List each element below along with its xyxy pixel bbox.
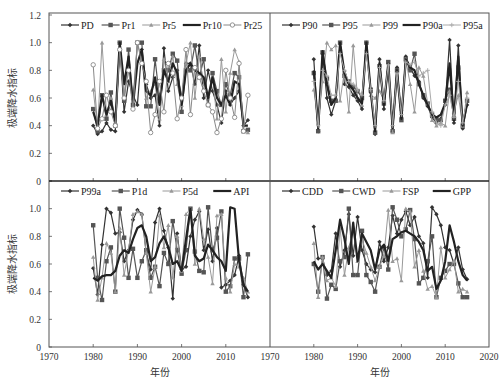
square-marker bbox=[202, 270, 206, 274]
y-tick-label: 0.4 bbox=[29, 287, 41, 297]
circle-marker bbox=[179, 96, 183, 100]
square-marker bbox=[430, 234, 434, 238]
square-marker bbox=[339, 189, 343, 193]
circle-marker bbox=[237, 61, 241, 65]
circle-marker bbox=[153, 112, 157, 116]
legend-label: Pr25 bbox=[243, 20, 262, 31]
diamond-marker bbox=[162, 46, 166, 50]
square-marker bbox=[210, 71, 214, 75]
square-marker bbox=[122, 236, 126, 240]
triangle-marker bbox=[166, 223, 170, 227]
diamond-marker bbox=[382, 107, 386, 111]
square-marker bbox=[390, 205, 394, 209]
legend-item-p90a: P90a bbox=[403, 20, 444, 31]
triangle-marker bbox=[334, 284, 338, 288]
plus-marker bbox=[390, 123, 394, 127]
square-marker bbox=[338, 259, 342, 263]
diamond-marker bbox=[312, 224, 316, 228]
triangle-marker bbox=[95, 298, 99, 302]
diamond-marker bbox=[68, 23, 72, 27]
triangle-marker bbox=[390, 259, 394, 263]
chart-figure: PDPr1Pr5Pr10Pr25P90P95P99P90aP95aP99aP1d… bbox=[0, 0, 502, 387]
square-marker bbox=[202, 57, 206, 61]
triangle-marker bbox=[228, 71, 232, 75]
circle-marker bbox=[224, 68, 228, 72]
triangle-marker bbox=[425, 287, 429, 291]
triangle-marker bbox=[325, 40, 329, 44]
triangle-marker bbox=[109, 96, 113, 100]
triangle-marker bbox=[439, 245, 443, 249]
y-tick-label: 0.6 bbox=[29, 94, 41, 104]
circle-marker bbox=[91, 63, 95, 67]
triangle-marker bbox=[443, 123, 447, 127]
square-marker bbox=[109, 90, 113, 94]
square-marker bbox=[329, 23, 333, 27]
panel-top-left: PDPr1Pr5Pr10Pr25 bbox=[49, 15, 262, 181]
y-tick-label: 0 bbox=[36, 177, 41, 187]
legend-label: P99 bbox=[382, 20, 398, 31]
square-marker bbox=[224, 289, 228, 293]
triangle-marker bbox=[347, 110, 351, 114]
triangle-marker bbox=[417, 65, 421, 69]
diamond-marker bbox=[425, 276, 429, 280]
x-tick-label: 1980 bbox=[84, 352, 103, 362]
legend-item-p1d: P1d bbox=[112, 186, 148, 197]
diamond-marker bbox=[157, 123, 161, 127]
diamond-marker bbox=[456, 43, 460, 47]
square-marker bbox=[175, 58, 179, 62]
legend-label: API bbox=[233, 186, 249, 197]
legend-label: Pr1 bbox=[122, 20, 136, 31]
circle-marker bbox=[100, 117, 104, 121]
square-marker bbox=[465, 295, 469, 299]
triangle-marker bbox=[386, 208, 390, 212]
diamond-marker bbox=[135, 103, 139, 107]
triangle-marker bbox=[232, 262, 236, 266]
diamond-marker bbox=[452, 121, 456, 125]
triangle-marker bbox=[224, 276, 228, 280]
square-marker bbox=[126, 47, 130, 51]
triangle-marker bbox=[232, 47, 236, 51]
diamond-marker bbox=[171, 296, 175, 300]
legend-item-cdd: CDD bbox=[282, 186, 323, 197]
circle-marker bbox=[171, 71, 175, 75]
square-marker bbox=[329, 283, 333, 287]
circle-marker bbox=[95, 126, 99, 130]
legend-label: PD bbox=[81, 20, 94, 31]
diamond-marker bbox=[377, 240, 381, 244]
triangle-marker bbox=[193, 262, 197, 266]
triangle-marker bbox=[206, 255, 210, 259]
diamond-marker bbox=[68, 189, 72, 193]
triangle-marker bbox=[338, 99, 342, 103]
legend-item-api: API bbox=[213, 186, 249, 197]
circle-marker bbox=[157, 79, 161, 83]
triangle-marker bbox=[443, 276, 447, 280]
diamond-marker bbox=[113, 231, 117, 235]
square-marker bbox=[412, 52, 416, 56]
square-marker bbox=[162, 251, 166, 255]
circle-marker bbox=[140, 61, 144, 65]
square-marker bbox=[447, 262, 451, 266]
x-tick-label: 2000 bbox=[172, 352, 191, 362]
diamond-marker bbox=[113, 129, 117, 133]
triangle-marker bbox=[162, 245, 166, 249]
circle-marker bbox=[206, 103, 210, 107]
diamond-marker bbox=[100, 242, 104, 246]
triangle-marker bbox=[148, 289, 152, 293]
legend-label: FSP bbox=[403, 186, 420, 197]
square-marker bbox=[316, 129, 320, 133]
y-tick-label: 1.2 bbox=[29, 11, 41, 21]
triangle-marker bbox=[228, 289, 232, 293]
circle-marker bbox=[219, 117, 223, 121]
circle-marker bbox=[148, 130, 152, 134]
diamond-marker bbox=[439, 223, 443, 227]
legend: PDPr1Pr5Pr10Pr25 bbox=[61, 20, 262, 31]
triangle-marker bbox=[91, 255, 95, 259]
diamond-marker bbox=[122, 110, 126, 114]
x-tick-label: 1990 bbox=[348, 352, 367, 362]
diamond-marker bbox=[157, 206, 161, 210]
diamond-marker bbox=[197, 43, 201, 47]
panel-bottom-right: CDDCWDFSPGPP bbox=[282, 186, 472, 348]
legend-label: P99a bbox=[81, 186, 102, 197]
triangle-marker bbox=[197, 206, 201, 210]
legend-item-p5d: P5d bbox=[163, 186, 199, 197]
